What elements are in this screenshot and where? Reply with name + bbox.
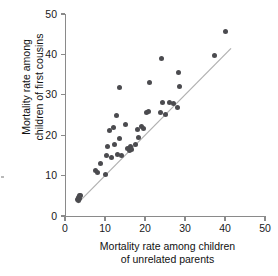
data-point — [163, 112, 168, 117]
x-tick-mark — [144, 217, 145, 221]
x-axis-title-line1: Mortality rate among children — [100, 240, 235, 252]
data-point — [109, 155, 114, 160]
x-tick-label: 50 — [253, 223, 277, 234]
y-tick-mark — [61, 135, 65, 136]
data-point — [129, 147, 134, 152]
data-point — [111, 125, 116, 130]
y-axis-title: Mortality rate among children of first c… — [20, 0, 46, 182]
scan-artifact — [1, 176, 4, 178]
data-point — [105, 144, 110, 149]
x-tick-mark — [264, 217, 265, 221]
x-tick-label: 10 — [93, 223, 117, 234]
x-tick-mark — [64, 217, 65, 221]
data-point — [119, 153, 124, 158]
y-axis-title-line1: Mortality rate among — [20, 39, 32, 135]
x-tick-label: 20 — [133, 223, 157, 234]
y-tick-mark — [61, 175, 65, 176]
x-tick-mark — [224, 217, 225, 221]
x-tick-label: 0 — [53, 223, 77, 234]
y-tick-mark — [61, 13, 65, 14]
y-tick-mark — [61, 94, 65, 95]
data-point — [177, 84, 182, 89]
data-point — [133, 142, 138, 147]
x-tick-label: 40 — [213, 223, 237, 234]
y-tick-mark — [61, 54, 65, 55]
data-point — [136, 135, 141, 140]
y-axis-title-line2: children of first cousins — [33, 0, 46, 182]
data-point — [160, 100, 165, 105]
data-point — [141, 126, 146, 131]
data-point — [95, 170, 100, 175]
data-point — [117, 136, 122, 141]
data-point — [117, 85, 122, 90]
data-point — [103, 172, 108, 177]
x-axis-title: Mortality rate among children of unrelat… — [60, 240, 275, 265]
data-point — [78, 193, 83, 198]
scatter-plot-figure: 01020304050 01020304050 Mortality rate a… — [0, 0, 278, 276]
x-axis-line — [65, 216, 266, 217]
y-tick-label: 0 — [35, 211, 57, 222]
x-tick-mark — [184, 217, 185, 221]
x-axis-title-line2: of unrelated parents — [60, 253, 275, 266]
x-tick-mark — [104, 217, 105, 221]
reference-line-segment — [78, 48, 231, 203]
data-point — [158, 110, 163, 115]
plot-area — [65, 14, 265, 216]
x-tick-label: 30 — [173, 223, 197, 234]
